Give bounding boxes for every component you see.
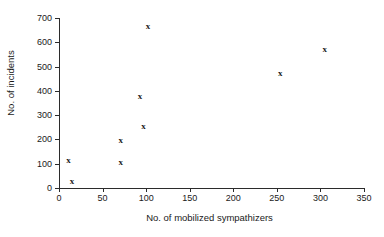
y-tick-label: 100 <box>22 160 52 169</box>
x-axis-title: No. of mobilized sympathizers <box>0 212 384 224</box>
x-tick-label: 0 <box>39 193 79 204</box>
data-point-marker: x <box>275 69 285 79</box>
data-point-marker: x <box>116 158 126 168</box>
x-tick-label: 250 <box>257 193 297 204</box>
x-tick-label: 100 <box>126 193 166 204</box>
data-point-marker: x <box>320 45 330 55</box>
x-tick-label: 350 <box>344 193 384 204</box>
y-tick <box>55 115 59 116</box>
y-axis-line <box>59 18 60 189</box>
y-tick-label: 200 <box>22 135 52 144</box>
y-tick <box>55 139 59 140</box>
x-tick <box>190 188 191 192</box>
data-point-marker: x <box>67 177 77 187</box>
data-point-marker: x <box>139 122 149 132</box>
data-point-marker: x <box>64 156 74 166</box>
y-tick-label: 600 <box>22 38 52 47</box>
x-tick <box>59 188 60 192</box>
y-tick <box>55 188 59 189</box>
x-tick <box>320 188 321 192</box>
x-tick <box>364 188 365 192</box>
x-tick <box>233 188 234 192</box>
y-tick <box>55 67 59 68</box>
x-tick-label: 50 <box>83 193 123 204</box>
x-tick <box>277 188 278 192</box>
y-tick-label: 700 <box>22 14 52 23</box>
data-point-marker: x <box>116 136 126 146</box>
y-tick-label: 400 <box>22 87 52 96</box>
plot-area <box>59 18 364 188</box>
data-point-marker: x <box>135 92 145 102</box>
scatter-plot-figure: 050100150200250300350 010020030040050060… <box>0 0 384 237</box>
x-axis-line <box>59 188 365 189</box>
y-tick <box>55 18 59 19</box>
x-tick <box>146 188 147 192</box>
y-tick <box>55 164 59 165</box>
y-tick <box>55 91 59 92</box>
data-point-marker: x <box>143 22 153 32</box>
x-tick-label: 200 <box>213 193 253 204</box>
x-tick-label: 150 <box>170 193 210 204</box>
y-tick <box>55 42 59 43</box>
y-tick-label: 500 <box>22 63 52 72</box>
x-tick-label: 300 <box>300 193 340 204</box>
x-tick <box>103 188 104 192</box>
y-tick-label: 0 <box>22 184 52 193</box>
y-tick-label: 300 <box>22 111 52 120</box>
y-axis-title: No. of incidents <box>5 18 17 148</box>
